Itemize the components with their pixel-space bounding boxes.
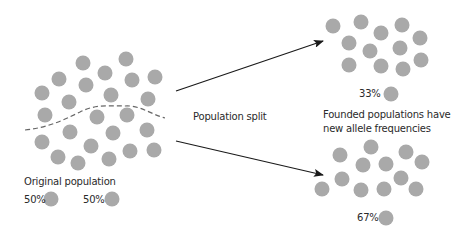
lower-population-dot <box>356 158 371 173</box>
upper-frequency-percent: 33% <box>359 87 381 100</box>
lower-population-dot <box>409 182 424 197</box>
original-population-dot <box>123 144 138 159</box>
population-split-label: Population split <box>193 110 267 123</box>
original-population-dot <box>102 152 117 167</box>
lower-population-dot <box>354 183 369 198</box>
original-population-dot <box>119 52 134 67</box>
original-population-dot <box>71 156 86 171</box>
original-population-dot <box>125 73 140 88</box>
upper-population-dot <box>363 44 378 59</box>
original-population-dot <box>140 123 155 138</box>
original-population-dots <box>35 52 163 171</box>
founded-populations-label-line2: new allele frequencies <box>323 122 431 135</box>
upper-population-dot <box>342 36 357 51</box>
legend-percent-allele-b: 50% <box>83 193 105 206</box>
lower-population-dot <box>415 155 430 170</box>
lower-population-dot <box>333 148 348 163</box>
lower-population-dot <box>399 145 414 160</box>
original-population-dot <box>106 126 121 141</box>
original-population-dot <box>147 143 162 158</box>
original-population-dot <box>51 150 66 165</box>
upper-population-dot <box>326 19 341 34</box>
original-population-dot <box>62 95 77 110</box>
original-population-label: Original population <box>24 175 116 188</box>
original-population-dot <box>52 72 67 87</box>
original-population-dot <box>90 110 105 125</box>
original-population-dot <box>76 56 91 71</box>
lower-frequency-dot <box>379 211 394 226</box>
original-population-dot <box>148 70 163 85</box>
lower-frequency-percent: 67% <box>357 211 379 224</box>
upper-population-dot <box>374 26 389 41</box>
lower-population-dot <box>377 182 392 197</box>
original-population-dot <box>63 125 78 140</box>
legend-percent-allele-a: 50% <box>24 193 46 206</box>
original-population-dot <box>98 66 113 81</box>
upper-arrow <box>176 41 323 91</box>
upper-population-dot <box>414 53 429 68</box>
original-population-dot <box>120 108 135 123</box>
upper-population-dot <box>393 41 408 56</box>
upper-population-dot <box>396 62 411 77</box>
lower-population-dot <box>364 140 379 155</box>
upper-founded-population-dots <box>326 15 429 77</box>
original-population-dot <box>79 78 94 93</box>
upper-frequency-dot <box>384 87 399 102</box>
upper-population-dot <box>342 58 357 73</box>
upper-population-dot <box>374 59 389 74</box>
lower-founded-population-dots <box>315 140 430 198</box>
original-population-dot <box>35 135 50 150</box>
upper-population-dot <box>413 31 428 46</box>
lower-arrow <box>176 141 323 175</box>
founded-populations-label-line1: Founded populations have <box>323 108 451 121</box>
lower-population-dot <box>315 182 330 197</box>
legend-dot-allele-a <box>44 192 59 207</box>
lower-population-dot <box>394 171 409 186</box>
legend-dot-allele-b <box>105 192 120 207</box>
lower-population-dot <box>335 172 350 187</box>
lower-population-dot <box>379 157 394 172</box>
upper-population-dot <box>354 15 369 30</box>
original-population-dot <box>104 88 119 103</box>
original-population-dot <box>84 139 99 154</box>
split-arrows <box>176 41 323 175</box>
original-population-dot <box>141 92 156 107</box>
original-population-dot <box>35 86 50 101</box>
upper-population-dot <box>395 18 410 33</box>
original-population-dot <box>38 108 53 123</box>
